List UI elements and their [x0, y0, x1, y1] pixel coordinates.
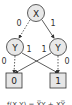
diagram-caption: f(X,Y) = X̅Y + XY̅	[7, 100, 66, 105]
edge-left-high	[22, 53, 58, 73]
node-left-y: Y	[7, 39, 24, 56]
node-root-label: X	[33, 9, 39, 19]
edge-right-high	[15, 53, 51, 73]
node-left-label: Y	[11, 43, 18, 53]
edge-label-left-high: 1	[26, 45, 31, 54]
node-right-y: Y	[50, 39, 67, 56]
terminal-one-label: 1	[55, 76, 61, 86]
edge-label-root-low: 0	[16, 19, 21, 28]
node-right-label: Y	[54, 43, 61, 53]
bdd-diagram: X Y Y 0 1 0 1 1 1 0 0 f(X,Y) = X̅Y + XY̅	[0, 0, 72, 105]
terminal-one: 1	[50, 73, 66, 88]
edge-label-right-high: 1	[41, 45, 46, 54]
node-root-x: X	[28, 5, 45, 22]
edge-label-left-low: 0	[1, 57, 6, 66]
edge-label-root-high: 1	[50, 19, 55, 28]
edge-label-right-low: 0	[64, 57, 69, 66]
terminal-zero-label: 0	[11, 76, 17, 86]
terminal-zero: 0	[6, 73, 22, 88]
edge-left-low	[14, 56, 15, 73]
